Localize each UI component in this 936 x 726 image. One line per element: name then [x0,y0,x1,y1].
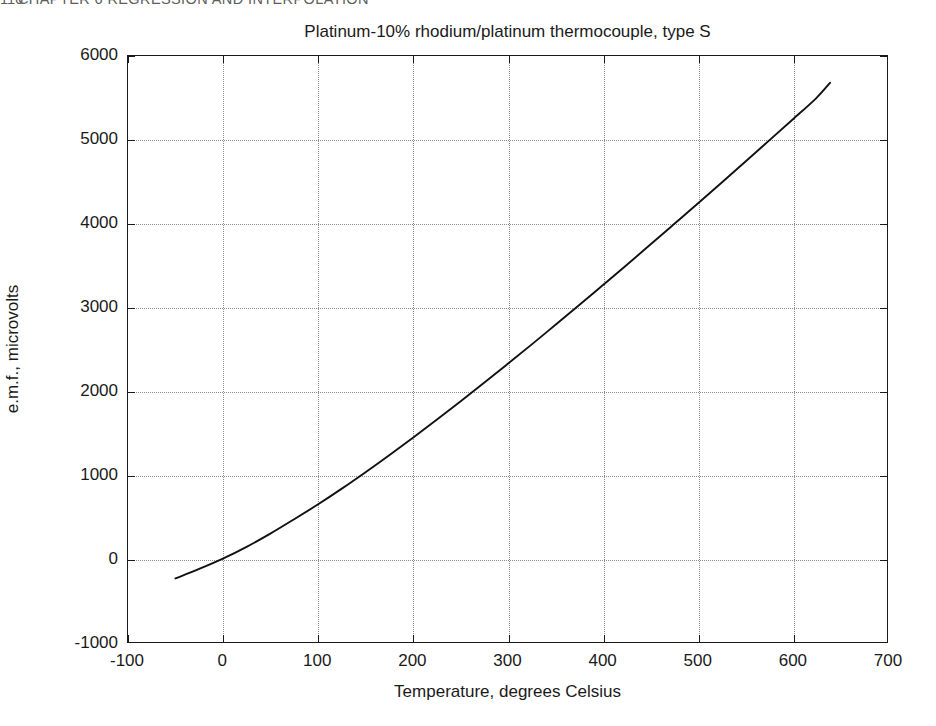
plot-inner [128,56,887,642]
chart-title: Platinum-10% rhodium/platinum thermocoup… [127,22,888,42]
x-tick-label: -100 [110,651,144,671]
y-tick-label: 0 [109,549,118,569]
x-tick-label: 0 [217,651,226,671]
chart-figure: Platinum-10% rhodium/platinum thermocoup… [0,0,936,726]
x-axis-label: Temperature, degrees Celsius [127,682,888,702]
y-tick-label: 4000 [80,213,118,233]
y-tick-label: 5000 [80,129,118,149]
y-tick-label: 1000 [80,465,118,485]
y-tick-label: -1000 [75,633,118,653]
y-tick-label: 2000 [80,381,118,401]
x-tick-label: 500 [684,651,712,671]
x-tick-label: 300 [493,651,521,671]
data-series-line [175,83,830,579]
x-tick-label: 400 [588,651,616,671]
y-tick-label: 3000 [80,297,118,317]
y-axis-label: e.m.f., microvolts [3,285,23,413]
plot-area [127,55,888,643]
x-tick-label: 100 [303,651,331,671]
x-tick-label: 200 [398,651,426,671]
x-tick-label: 700 [874,651,902,671]
y-tick-label: 6000 [80,45,118,65]
x-tick-label: 600 [779,651,807,671]
series-line-layer [128,56,887,642]
